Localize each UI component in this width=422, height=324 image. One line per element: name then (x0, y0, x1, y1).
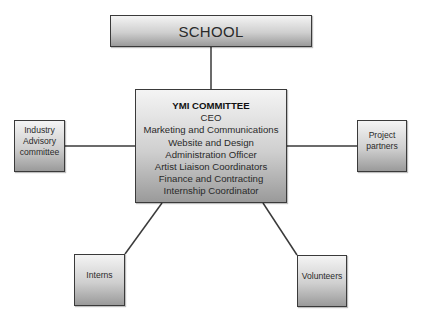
industry-line-3: committee (20, 147, 60, 158)
role-administration: Administration Officer (165, 149, 257, 161)
volunteers-box: Volunteers (297, 255, 347, 307)
role-ceo: CEO (201, 112, 222, 124)
partners-line-2: partners (366, 141, 398, 152)
interns-label: Interns (86, 270, 112, 281)
interns-box: Interns (74, 254, 125, 306)
ymi-committee-box: YMI COMMITTEE CEO Marketing and Communic… (135, 89, 287, 203)
role-internship: Internship Coordinator (164, 185, 259, 197)
industry-advisory-box: Industry Advisory committee (14, 120, 65, 172)
industry-line-1: Industry (24, 125, 55, 136)
role-website: Website and Design (168, 137, 254, 149)
committee-title: YMI COMMITTEE (172, 100, 249, 112)
role-finance: Finance and Contracting (159, 173, 264, 185)
connector-interns-committee (125, 203, 162, 254)
volunteers-label: Volunteers (302, 271, 343, 282)
project-partners-box: Project partners (357, 120, 407, 172)
connector-volunteers-committee (263, 203, 297, 255)
partners-line-1: Project (369, 130, 396, 141)
role-artist-liaison: Artist Liaison Coordinators (155, 161, 268, 173)
school-label: SCHOOL (178, 23, 243, 40)
role-marketing: Marketing and Communications (144, 124, 279, 136)
industry-line-2: Advisory (23, 136, 56, 147)
school-box: SCHOOL (110, 15, 312, 47)
